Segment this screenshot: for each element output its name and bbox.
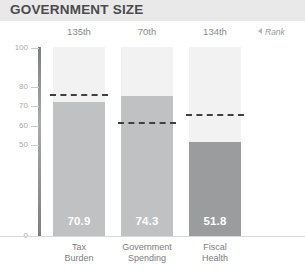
category-label-0: Tax Burden xyxy=(47,242,111,263)
baseline xyxy=(0,236,305,237)
bar-value-0: 70.9 xyxy=(53,215,105,227)
y-label-50: 50 xyxy=(0,140,28,149)
y-tick-80 xyxy=(31,87,39,88)
y-label-60: 60 xyxy=(0,121,28,130)
bar-value-2: 51.8 xyxy=(189,215,241,227)
world-average-line-1 xyxy=(118,122,176,124)
y-label-100: 100 xyxy=(0,43,28,52)
category-label-2: Fiscal Health xyxy=(183,242,247,263)
y-tick-100 xyxy=(31,48,39,49)
chart-root: GOVERNMENT SIZE 135th 70th 134th Rank 10… xyxy=(0,0,305,275)
y-tick-70 xyxy=(31,106,39,107)
y-label-70: 70 xyxy=(0,101,28,110)
y-tick-60 xyxy=(31,126,39,127)
world-average-line-0 xyxy=(50,94,108,96)
rank-label-1: 70th xyxy=(121,26,173,37)
category-label-1: Government Spending xyxy=(113,242,181,263)
rank-row: 135th 70th 134th Rank xyxy=(0,26,305,42)
y-axis-line xyxy=(38,47,41,237)
bar-value-1: 74.3 xyxy=(121,215,173,227)
rank-label-2: 134th xyxy=(189,26,241,37)
y-label-80: 80 xyxy=(0,82,28,91)
rank-label-0: 135th xyxy=(53,26,105,37)
rank-note: Rank xyxy=(258,27,285,37)
plot-area: 135th 70th 134th Rank 100 80 70 60 50 0 … xyxy=(0,21,305,275)
left-triangle-icon xyxy=(258,28,262,34)
y-tick-50 xyxy=(31,145,39,146)
rank-note-label: Rank xyxy=(265,27,285,37)
page-title: GOVERNMENT SIZE xyxy=(10,2,144,17)
world-average-line-2 xyxy=(186,114,244,116)
